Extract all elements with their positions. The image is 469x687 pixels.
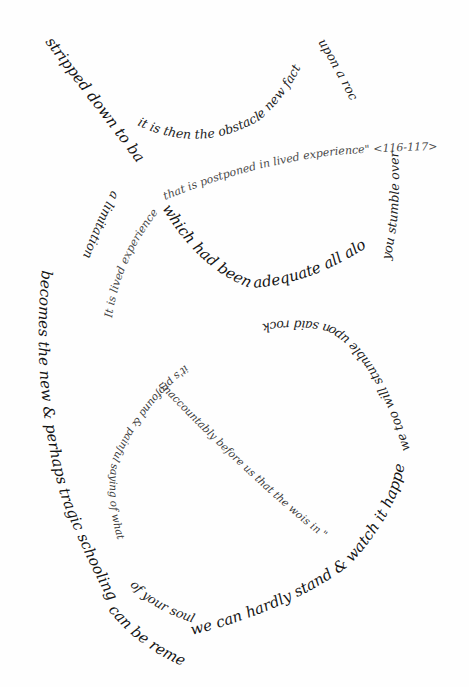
- poem-page: stripped down to basic words a limitatio…: [0, 0, 469, 687]
- line-limitation: a limitation: [80, 189, 123, 261]
- line-obstacle: it is then the obstacle new fact: [136, 61, 304, 142]
- line-stumble-rock: we too will stumble upon said rock: [261, 317, 413, 453]
- line-profound-saying: it's profound & painful saying of what: [108, 363, 192, 541]
- line-your-soul: of your soul: [128, 577, 197, 626]
- line-stumble-over: you stumble over: [378, 150, 402, 262]
- line-lived-experience: It is lived experience: [102, 206, 161, 320]
- line-stripped-down: stripped down to basic words: [0, 0, 149, 166]
- poem-canvas: stripped down to basic words a limitatio…: [0, 0, 469, 687]
- line-diagonal-tail: is in ": [299, 512, 330, 540]
- line-becomes-new: becomes the new & perhaps tragic schooli…: [35, 270, 122, 604]
